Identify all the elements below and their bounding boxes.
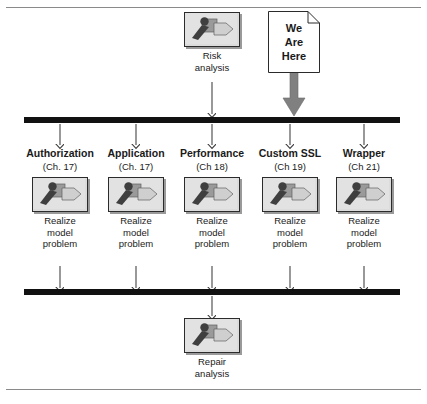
use-case-realization-icon xyxy=(184,177,240,212)
column-chapter: (Ch 21) xyxy=(316,160,412,173)
caption-line: analysis xyxy=(180,62,244,74)
use-case-realization-icon xyxy=(32,177,88,212)
column-wrapper[interactable]: Wrapper (Ch 21) Realize model problem xyxy=(316,147,412,250)
caption-repair-analysis: Repair analysis xyxy=(180,356,244,379)
use-case-realization-icon xyxy=(108,177,164,212)
caption-line: problem xyxy=(316,238,412,250)
node-risk-analysis[interactable]: Risk analysis xyxy=(180,12,244,73)
fat-down-arrow-icon xyxy=(283,72,305,116)
column-title: Wrapper xyxy=(316,147,412,160)
column-caption: Realize model problem xyxy=(316,215,412,250)
page-rule-bottom xyxy=(6,389,421,390)
use-case-realization-icon xyxy=(184,318,240,353)
note-we-are-here[interactable]: We Are Here xyxy=(268,11,320,73)
caption-risk-analysis: Risk analysis xyxy=(180,50,244,73)
diagram-canvas: Risk analysis We Are Here Authorization … xyxy=(0,0,427,404)
caption-line: Repair xyxy=(180,356,244,368)
note-text: We Are Here xyxy=(268,11,320,73)
node-repair-analysis[interactable]: Repair analysis xyxy=(180,318,244,379)
upper-sync-bar xyxy=(24,117,400,123)
note-line: Here xyxy=(282,49,306,63)
caption-line: analysis xyxy=(180,368,244,380)
note-line: Are xyxy=(285,35,303,49)
caption-line: model xyxy=(316,227,412,239)
page-rule-top xyxy=(6,7,421,8)
note-line: We xyxy=(286,21,302,35)
use-case-realization-icon xyxy=(262,177,318,212)
use-case-realization-icon xyxy=(336,177,392,212)
caption-line: Realize xyxy=(316,215,412,227)
lower-sync-bar xyxy=(24,289,400,295)
use-case-realization-icon xyxy=(184,12,240,47)
caption-line: Risk xyxy=(180,50,244,62)
